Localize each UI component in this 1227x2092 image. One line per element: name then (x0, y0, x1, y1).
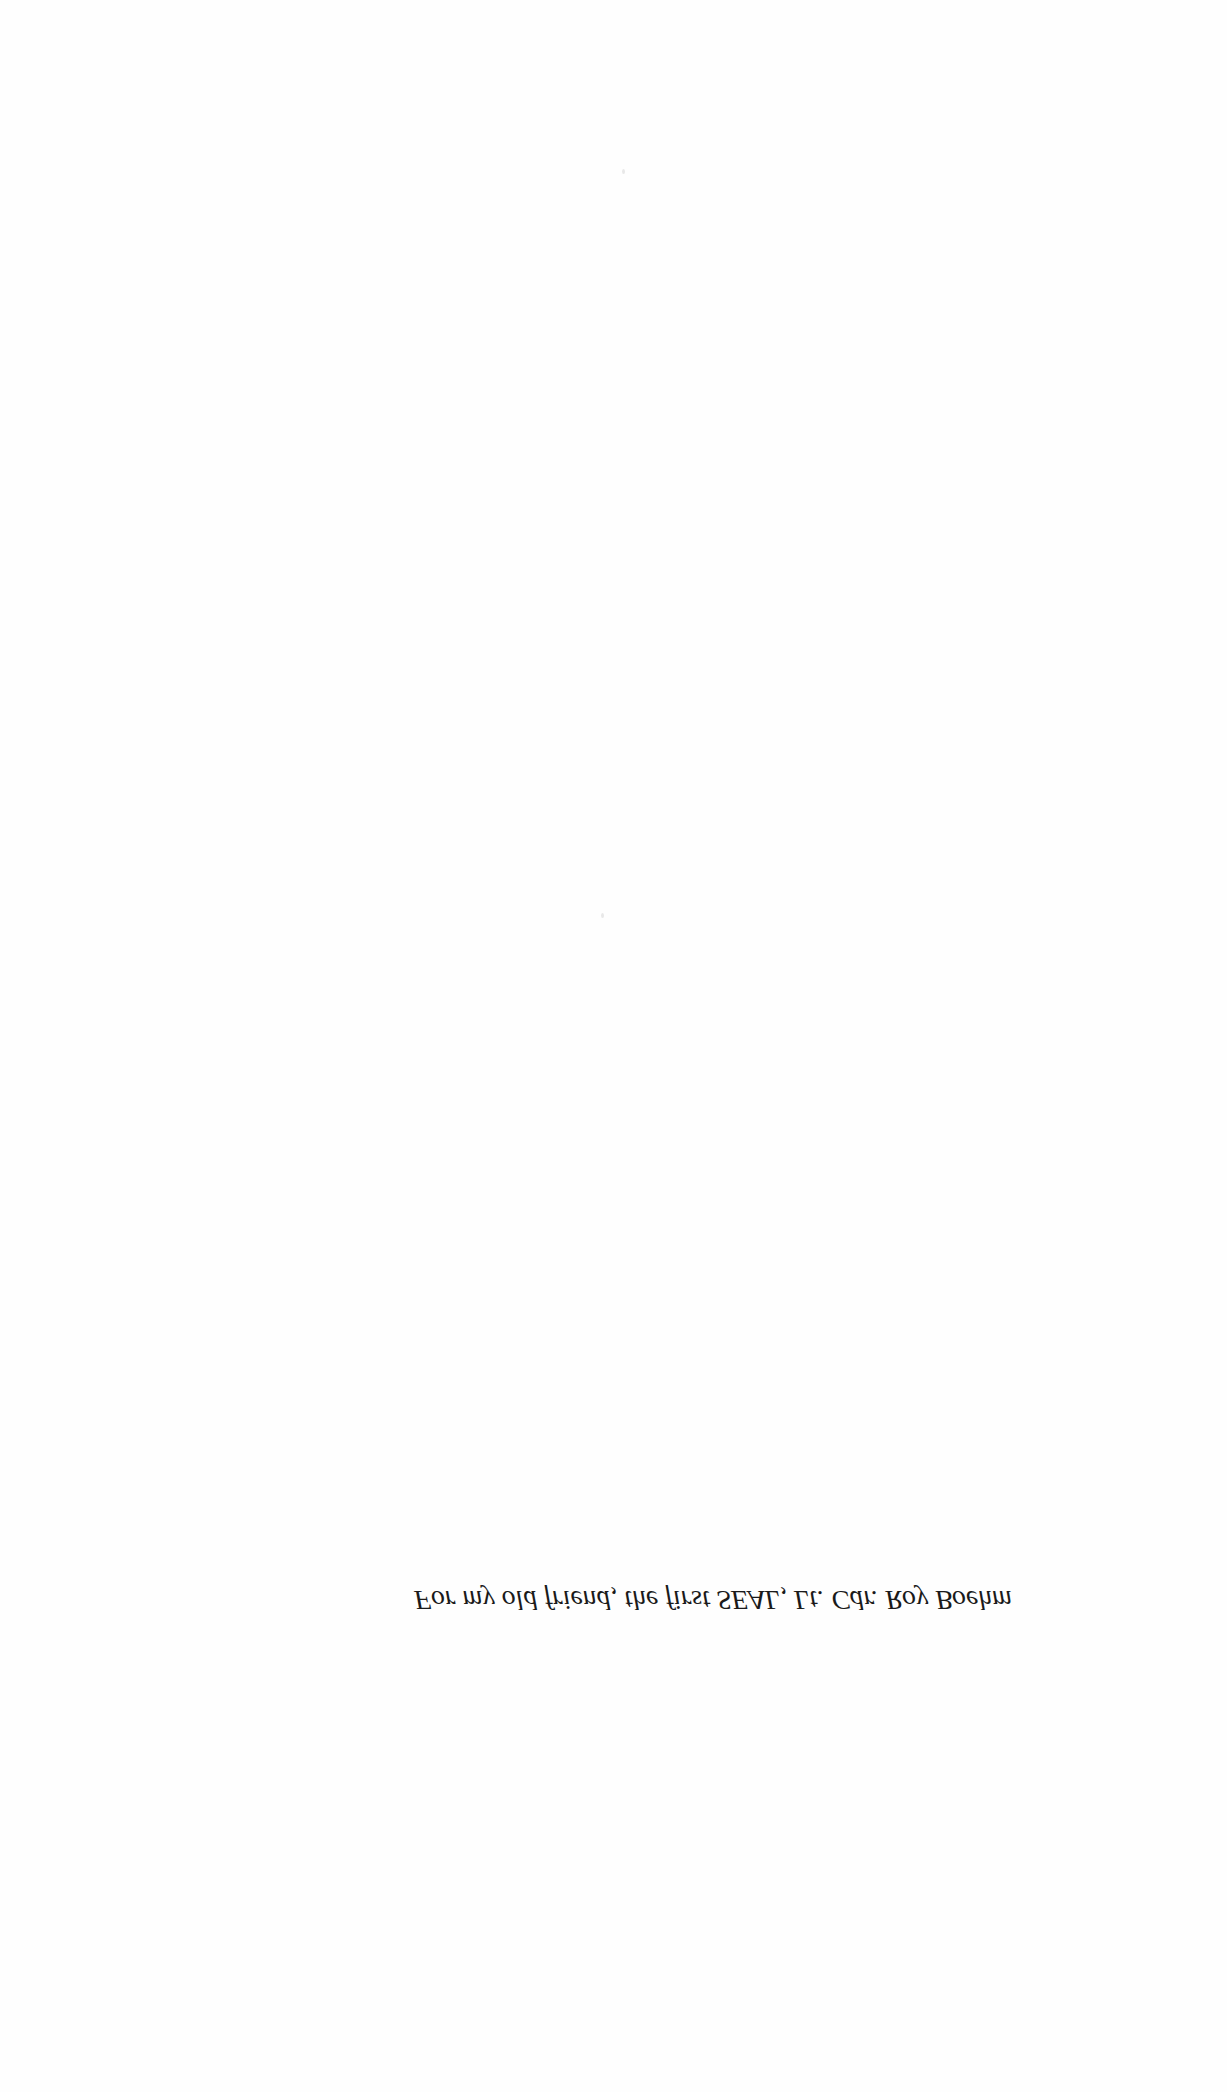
scan-speck (601, 913, 604, 918)
dedication-block: For my old friend, the first SEAL, Lt. C… (414, 1578, 1018, 1622)
dedication-text: For my old friend, the first SEAL, Lt. C… (414, 1584, 1012, 1616)
document-page: For my old friend, the first SEAL, Lt. C… (0, 0, 1227, 2092)
scan-speck (622, 169, 625, 174)
